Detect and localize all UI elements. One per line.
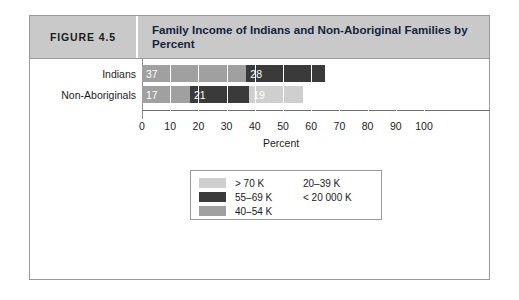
figure-number-label: FIGURE 4.5 <box>50 31 116 43</box>
gridline <box>170 59 171 119</box>
legend-swatch <box>199 206 226 216</box>
x-axis-tick-label: 70 <box>334 120 346 132</box>
bar-segment: 28 <box>246 65 325 82</box>
bar-segment: 37 <box>142 65 246 82</box>
x-axis-line-extension <box>424 110 490 111</box>
figure-number-cell: FIGURE 4.5 <box>30 16 138 58</box>
legend-item: > 70 K <box>199 177 272 190</box>
gridline <box>311 59 312 119</box>
legend-label: 20–39 K <box>303 178 340 189</box>
x-axis-tick-label: 20 <box>193 120 205 132</box>
bar-value-label: 21 <box>194 89 206 100</box>
gridline <box>255 59 256 119</box>
legend-label: 55–69 K <box>235 192 272 203</box>
legend-item: < 20 000 K <box>303 191 352 204</box>
legend-label: > 70 K <box>235 178 264 189</box>
gridline <box>424 59 425 119</box>
x-axis-tick-label: 50 <box>277 120 289 132</box>
bar-value-label: 17 <box>146 89 158 100</box>
bar-value-label: 28 <box>250 68 262 79</box>
legend-swatch <box>199 192 226 202</box>
legend-label: 40–54 K <box>235 206 272 217</box>
figure-title-cell: Family Income of Indians and Non-Aborigi… <box>138 16 489 58</box>
x-axis-tick-label: 0 <box>139 120 145 132</box>
category-label: Non-Aboriginals <box>61 89 136 101</box>
gridline <box>396 59 397 119</box>
gridline <box>339 59 340 119</box>
chart-legend: > 70 K55–69 K40–54 K 20–39 K< 20 000 K <box>190 170 382 220</box>
bar-segment: 17 <box>142 86 190 103</box>
x-axis-tick-label: 30 <box>221 120 233 132</box>
legend-item: 20–39 K <box>303 177 352 190</box>
legend-swatch <box>199 178 226 188</box>
bar-value-label: 37 <box>146 68 158 79</box>
x-axis-tick-label: 90 <box>390 120 402 132</box>
legend-column-right: 20–39 K< 20 000 K <box>303 177 352 205</box>
gridline <box>227 59 228 119</box>
legend-label: < 20 000 K <box>303 192 352 203</box>
x-axis-title: Percent <box>263 137 299 149</box>
x-axis-tick-label: 40 <box>249 120 261 132</box>
bar-segment: 19 <box>249 86 303 103</box>
legend-column-left: > 70 K55–69 K40–54 K <box>199 177 272 219</box>
gridline <box>198 59 199 119</box>
legend-item: 40–54 K <box>199 205 272 218</box>
x-axis-tick-label: 100 <box>415 120 433 132</box>
category-label-column: IndiansNon-Aboriginals <box>38 59 136 281</box>
legend-item: 55–69 K <box>199 191 272 204</box>
figure-title: Family Income of Indians and Non-Aborigi… <box>152 23 481 52</box>
figure-card: FIGURE 4.5 Family Income of Indians and … <box>29 15 490 280</box>
x-axis-tick-label: 60 <box>305 120 317 132</box>
figure-header: FIGURE 4.5 Family Income of Indians and … <box>30 16 489 59</box>
gridline <box>368 59 369 119</box>
category-label: Indians <box>102 68 136 80</box>
x-axis-tick-label: 10 <box>164 120 176 132</box>
gridline <box>283 59 284 119</box>
bar-row: 172119 <box>142 86 303 103</box>
x-axis-tick-label: 80 <box>362 120 374 132</box>
